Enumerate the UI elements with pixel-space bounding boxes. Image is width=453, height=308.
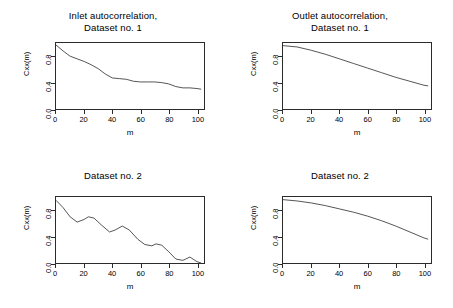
- x-axis: 0 20 40 60 80 100: [282, 110, 432, 111]
- panel-title: Dataset no. 2: [227, 170, 453, 182]
- panel-title: Dataset no. 2: [0, 170, 226, 182]
- panel-title-line2: Dataset no. 1: [0, 22, 226, 34]
- x-axis-title: m: [55, 128, 205, 137]
- autocorrelation-curve: [283, 43, 431, 109]
- x-tick-label: 20: [306, 115, 314, 124]
- y-axis: 0.0 0.4 0.8: [282, 42, 283, 110]
- panel-title: Outlet autocorrelation, Dataset no. 1: [227, 10, 453, 33]
- x-tick-label: 60: [364, 115, 372, 124]
- y-tick-label: 0.4: [44, 235, 53, 245]
- y-tick-label: 0.8: [44, 208, 53, 218]
- panel-title-line1: Outlet autocorrelation,: [292, 10, 388, 21]
- y-axis-title: Cxx(m): [249, 206, 258, 230]
- panel-title: Inlet autocorrelation, Dataset no. 1: [0, 10, 226, 33]
- x-tick-label: 80: [165, 269, 173, 278]
- panel-inlet-dataset-1: Inlet autocorrelation, Dataset no. 1 Cxx…: [0, 0, 226, 154]
- x-tick-label: 0: [280, 269, 284, 278]
- x-tick-label: 40: [108, 269, 116, 278]
- x-tick-label: 100: [419, 115, 432, 124]
- y-tick-label: 0.8: [44, 54, 53, 64]
- y-tick-label: 0.8: [271, 208, 280, 218]
- y-axis: 0.0 0.4 0.8: [55, 196, 56, 264]
- x-tick-label: 100: [419, 269, 432, 278]
- plot-frame: [55, 42, 205, 110]
- y-tick-label: 0.4: [44, 81, 53, 91]
- x-axis-title: m: [55, 282, 205, 291]
- x-tick-label: 40: [335, 115, 343, 124]
- y-axis-title: Cxx(m): [249, 52, 258, 76]
- panel-outlet-dataset-2: Dataset no. 2 Cxx(m) 0.0 0.4 0.8 0 20 40…: [227, 154, 453, 308]
- plot-frame: [55, 196, 205, 264]
- x-tick-label: 60: [137, 115, 145, 124]
- panel-outlet-dataset-1: Outlet autocorrelation, Dataset no. 1 Cx…: [227, 0, 453, 154]
- x-tick-label: 60: [364, 269, 372, 278]
- x-axis: 0 20 40 60 80 100: [282, 264, 432, 265]
- x-axis-title: m: [282, 282, 432, 291]
- y-tick-label: 0.8: [271, 54, 280, 64]
- x-tick-label: 0: [53, 115, 57, 124]
- x-tick-label: 0: [53, 269, 57, 278]
- y-axis: 0.0 0.4 0.8: [55, 42, 56, 110]
- x-tick-label: 20: [79, 269, 87, 278]
- autocorrelation-curve: [283, 197, 431, 263]
- x-tick-label: 80: [392, 269, 400, 278]
- y-tick-label: 0.4: [271, 81, 280, 91]
- autocorrelation-curve: [56, 43, 204, 109]
- y-axis-title: Cxx(m): [22, 206, 31, 230]
- x-tick-label: 40: [335, 269, 343, 278]
- x-tick-label: 80: [165, 115, 173, 124]
- y-tick-label: 0.0: [44, 263, 53, 273]
- panel-inlet-dataset-2: Dataset no. 2 Cxx(m) 0.0 0.4 0.8 0 20 40…: [0, 154, 226, 308]
- x-axis: 0 20 40 60 80 100: [55, 110, 205, 111]
- y-tick-label: 0.4: [271, 235, 280, 245]
- x-axis-title: m: [282, 128, 432, 137]
- panel-title-line1: Inlet autocorrelation,: [69, 10, 157, 21]
- x-tick-label: 20: [306, 269, 314, 278]
- panel-title-line2: Dataset no. 1: [227, 22, 453, 34]
- x-tick-label: 0: [280, 115, 284, 124]
- autocorrelation-curve: [56, 197, 204, 263]
- x-tick-label: 100: [192, 269, 205, 278]
- plot-frame: [282, 196, 432, 264]
- x-tick-label: 60: [137, 269, 145, 278]
- y-axis: 0.0 0.4 0.8: [282, 196, 283, 264]
- y-tick-label: 0.0: [271, 109, 280, 119]
- x-axis: 0 20 40 60 80 100: [55, 264, 205, 265]
- x-tick-label: 40: [108, 115, 116, 124]
- plot-frame: [282, 42, 432, 110]
- x-tick-label: 80: [392, 115, 400, 124]
- y-axis-title: Cxx(m): [22, 52, 31, 76]
- panel-title-line1: Dataset no. 2: [311, 170, 369, 181]
- panel-title-line1: Dataset no. 2: [84, 170, 142, 181]
- y-tick-label: 0.0: [44, 109, 53, 119]
- figure-grid: Inlet autocorrelation, Dataset no. 1 Cxx…: [0, 0, 453, 308]
- y-tick-label: 0.0: [271, 263, 280, 273]
- x-tick-label: 20: [79, 115, 87, 124]
- x-tick-label: 100: [192, 115, 205, 124]
